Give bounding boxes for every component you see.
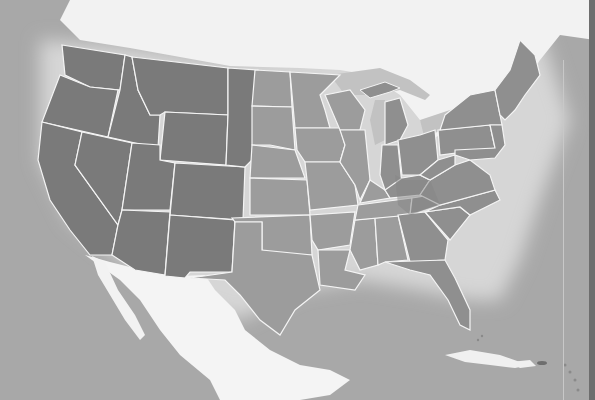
state-kansas — [250, 178, 310, 215]
state-iowa — [295, 128, 345, 162]
state-colorado — [170, 163, 245, 220]
us-map — [0, 0, 595, 400]
puerto-rico-island — [537, 361, 547, 365]
state-arkansas — [310, 212, 355, 250]
state-new-mexico — [165, 215, 235, 278]
page-fold-line — [563, 60, 564, 400]
page-edge — [589, 0, 595, 400]
state-wyoming — [160, 112, 228, 165]
state-south-dakota — [252, 106, 295, 150]
state-north-dakota — [252, 70, 292, 107]
